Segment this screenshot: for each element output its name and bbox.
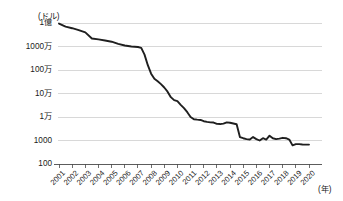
x-axis-tick-labels: 2001200220032004200520062007200820092010… (49, 169, 317, 187)
y-axis-tick-labels: 1億1000万100万10万1万1000100 (26, 17, 53, 168)
gridlines (58, 23, 322, 141)
data-series (59, 24, 309, 146)
y-tick-label: 1000 (34, 136, 53, 145)
x-axis (54, 164, 322, 168)
chart-canvas: 1億1000万100万10万1万1000100 2001200220032004… (0, 0, 343, 201)
y-tick-label: 100万 (30, 65, 52, 74)
y-tick-label: 10万 (35, 89, 52, 98)
y-tick-label: 1万 (39, 112, 52, 121)
cost-per-genome-chart: 1億1000万100万10万1万1000100 2001200220032004… (0, 0, 343, 201)
x-tick-label: 2020 (299, 169, 317, 187)
y-axis-unit-label: (ドル) (38, 12, 60, 21)
x-axis-unit-label: (年) (318, 184, 332, 194)
series-line (59, 24, 309, 146)
y-tick-label: 1000万 (26, 42, 52, 51)
y-tick-label: 100 (38, 159, 52, 168)
